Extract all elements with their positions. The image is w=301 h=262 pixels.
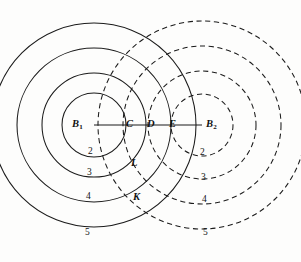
order-label-right-3: 3 [201, 173, 206, 183]
order-label-right-2: 2 [200, 148, 205, 158]
order-label-left-4: 4 [86, 192, 91, 202]
order-label-right-4: 4 [202, 195, 207, 205]
order-label-left-3: 3 [87, 168, 92, 178]
order-label-left-5: 5 [85, 228, 90, 238]
source-b2-label: B2 [206, 119, 217, 130]
wavefront-diagram [0, 0, 301, 262]
point-k-label: K [133, 192, 140, 203]
point-e-label: E [169, 119, 176, 130]
point-l-label: L [131, 158, 137, 169]
point-c-label: C [126, 119, 133, 130]
point-d-label: D [147, 119, 155, 130]
source-b1-label: B1 [72, 119, 83, 130]
order-label-left-2: 2 [88, 147, 93, 157]
figure-canvas: B1 B2 C D E L K 2 3 4 5 2 3 4 5 [0, 0, 301, 262]
order-label-right-5: 5 [203, 228, 208, 238]
